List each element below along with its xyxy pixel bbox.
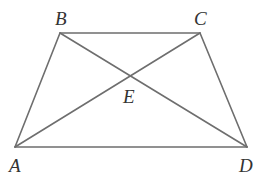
- label-e: E: [122, 86, 135, 107]
- diagonal-bd: [60, 33, 247, 147]
- label-a: A: [7, 155, 21, 176]
- trapezoid-diagram: B C E A D: [0, 0, 265, 181]
- segment-ab: [15, 33, 60, 147]
- label-c: C: [194, 8, 207, 29]
- diagram-canvas: B C E A D: [0, 0, 265, 181]
- segment-cd: [200, 33, 247, 147]
- label-b: B: [55, 8, 67, 29]
- label-d: D: [238, 155, 253, 176]
- diagonal-ac: [15, 33, 200, 147]
